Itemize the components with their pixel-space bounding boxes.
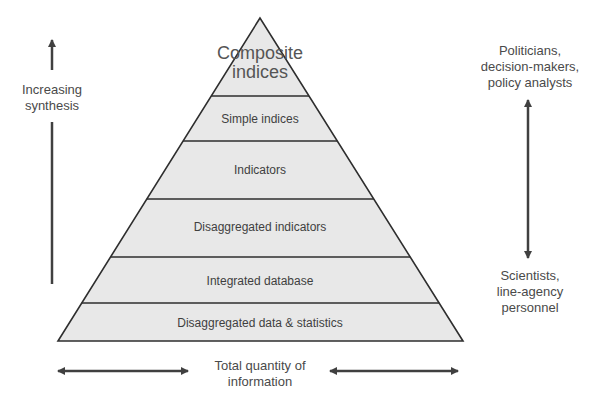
right-top-label-line2: decision-makers,	[470, 59, 590, 75]
layer-label-disaggregated-data: Disaggregated data & statistics	[130, 316, 390, 331]
right-top-label: Politicians, decision-makers, policy ana…	[470, 43, 590, 91]
layer-label-integrated-database: Integrated database	[150, 274, 370, 289]
left-axis-label: Increasing synthesis	[0, 82, 104, 114]
right-bottom-label-line2: line-agency	[470, 284, 590, 300]
left-axis-label-line2: synthesis	[0, 98, 104, 114]
layer-label-indicators: Indicators	[180, 163, 340, 178]
layer-label-composite-indices: Composite indices	[205, 44, 315, 82]
right-bottom-label: Scientists, line-agency personnel	[470, 268, 590, 316]
layer-label-simple-indices: Simple indices	[180, 112, 340, 127]
bottom-axis-label-line2: information	[190, 374, 330, 390]
bottom-axis-label-line1: Total quantity of	[190, 358, 330, 374]
layer-label-disaggregated-indicators: Disaggregated indicators	[150, 220, 370, 235]
right-bottom-label-line3: personnel	[470, 300, 590, 316]
right-top-label-line3: policy analysts	[470, 75, 590, 91]
left-axis-label-line1: Increasing	[0, 82, 104, 98]
right-top-label-line1: Politicians,	[470, 43, 590, 59]
right-bottom-label-line1: Scientists,	[470, 268, 590, 284]
bottom-axis-label: Total quantity of information	[190, 358, 330, 390]
